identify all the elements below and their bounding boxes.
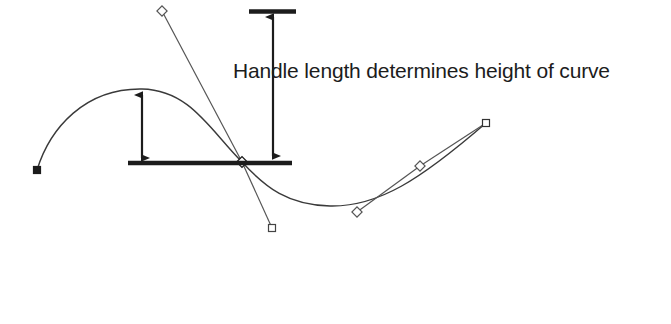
- handle-end-top-diamond-icon[interactable]: [157, 6, 167, 16]
- anchor-mid-right-diamond-icon[interactable]: [415, 161, 425, 171]
- anchor-start-square-icon[interactable]: [34, 167, 41, 174]
- handle-line-left-upper: [162, 11, 242, 162]
- handle-end-bottom-square-icon[interactable]: [269, 225, 276, 232]
- marker-group: [34, 6, 490, 232]
- measure-arrows-group: [142, 17, 273, 158]
- caption-label: Handle length determines height of curve: [233, 58, 610, 84]
- handle-line-right-lower: [357, 166, 420, 212]
- reference-rules-group: [128, 12, 296, 164]
- bezier-curve-path: [37, 89, 486, 206]
- handle-line-left-lower: [242, 162, 272, 228]
- handle-line-right-upper: [420, 123, 486, 166]
- bezier-curve-group: [37, 89, 486, 206]
- bezier-diagram: [0, 0, 671, 324]
- anchor-end-square-icon[interactable]: [483, 120, 490, 127]
- figure-canvas: Handle length determines height of curve: [0, 0, 671, 324]
- handle-lines-group: [162, 11, 486, 228]
- handle-end-lower-right-diamond-icon[interactable]: [352, 207, 362, 217]
